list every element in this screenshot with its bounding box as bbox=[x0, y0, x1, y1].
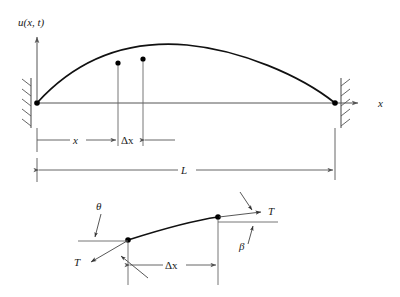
curve-point-x-plus-delta-x bbox=[140, 56, 145, 61]
tension-left-arrow bbox=[91, 241, 127, 262]
dimension-delta-x-bottom: Δx bbox=[130, 259, 216, 271]
top-diagram: u(x, t) x bbox=[18, 16, 383, 182]
beta-leader-arrow bbox=[248, 226, 253, 244]
dim-delta-x-top-label: Δx bbox=[121, 134, 134, 146]
left-end-node bbox=[34, 100, 40, 106]
dim-length-label: L bbox=[180, 164, 187, 176]
dim-delta-x-bottom-label: Δx bbox=[165, 259, 178, 271]
curve-point-x bbox=[115, 60, 120, 65]
tension-right-label: T bbox=[268, 205, 275, 217]
dimension-x: x bbox=[37, 134, 116, 146]
string-deflection-curve bbox=[37, 44, 335, 103]
theta-angle-indicator bbox=[121, 256, 148, 278]
dimension-delta-x-top: Δx bbox=[121, 134, 175, 146]
beta-label: β bbox=[238, 240, 245, 252]
u-axis-label: u(x, t) bbox=[18, 16, 45, 29]
figure-root: u(x, t) x bbox=[0, 0, 400, 297]
x-axis-label: x bbox=[377, 97, 383, 109]
theta-leader-arrow bbox=[95, 214, 101, 237]
right-end-node bbox=[332, 100, 338, 106]
left-support bbox=[22, 78, 31, 128]
bottom-diagram: θ T T β Δx bbox=[74, 192, 278, 285]
string-element-arc bbox=[128, 217, 218, 240]
dim-x-label: x bbox=[72, 134, 78, 146]
dimension-length-L: L bbox=[39, 164, 333, 176]
wave-equation-figure: u(x, t) x bbox=[0, 0, 400, 297]
tension-right-arrow bbox=[219, 212, 261, 217]
tension-right-leader bbox=[240, 192, 252, 210]
tension-left-label: T bbox=[74, 256, 81, 268]
theta-label: θ bbox=[96, 200, 102, 212]
left-support-hatching bbox=[22, 79, 31, 126]
